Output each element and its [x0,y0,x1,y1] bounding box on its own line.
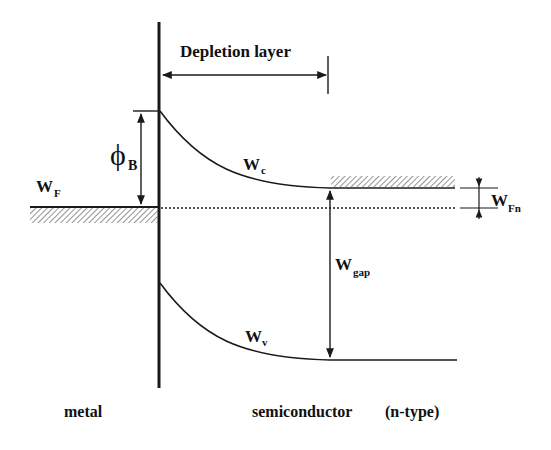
wf-label: W [36,177,53,196]
wgap-subscript: gap [353,266,370,278]
n-type-label: (n-type) [385,403,439,421]
depletion-layer-label: Depletion layer [180,42,291,61]
valence-band-curve [160,283,457,360]
wv-label: W [245,327,262,346]
semiconductor-conduction-electrons [331,176,455,188]
wc-label: W [243,155,260,174]
phi-b-label: ϕ [110,138,126,171]
band-diagram: Depletion layer ϕ B W F W c W Fn W gap W… [0,0,551,450]
wfn-subscript: Fn [508,202,521,214]
metal-label: metal [64,403,103,420]
wgap-label: W [335,255,352,274]
semiconductor-label: semiconductor [252,403,352,420]
phi-b-subscript: B [128,158,137,173]
wc-subscript: c [261,164,266,176]
metal-filled-states [30,207,158,223]
wf-subscript: F [54,187,61,199]
wv-subscript: v [262,336,268,348]
wfn-label: W [491,191,508,210]
